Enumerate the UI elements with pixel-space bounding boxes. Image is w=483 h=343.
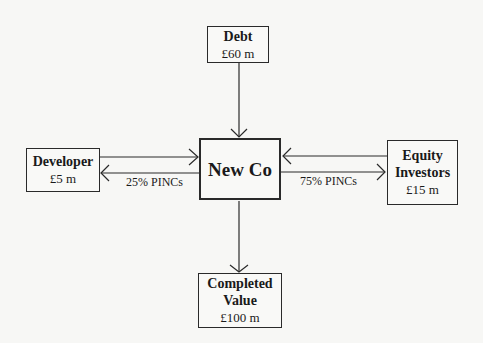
- equity-value: £15 m: [406, 181, 439, 198]
- completed-value: £100 m: [220, 309, 259, 326]
- equity-title-line1: Equity: [402, 147, 442, 164]
- completed-title-line1: Completed: [207, 275, 272, 292]
- equity-title-line2: Investors: [395, 164, 450, 181]
- developer-title: Developer: [33, 153, 94, 170]
- debt-title: Debt: [224, 28, 253, 45]
- debt-value: £60 m: [222, 45, 255, 62]
- developer-pincs-label: 25% PINCs: [126, 175, 183, 189]
- new-co-node: New Co: [199, 138, 281, 200]
- debt-node: Debt £60 m: [207, 26, 269, 63]
- developer-node: Developer £5 m: [26, 148, 100, 192]
- equity-pincs-label: 75% PINCs: [300, 174, 357, 188]
- developer-value: £5 m: [50, 170, 76, 187]
- completed-title-line2: Value: [223, 292, 257, 309]
- new-co-title: New Co: [208, 161, 272, 178]
- equity-investors-node: Equity Investors £15 m: [387, 140, 458, 205]
- completed-value-node: Completed Value £100 m: [198, 273, 282, 328]
